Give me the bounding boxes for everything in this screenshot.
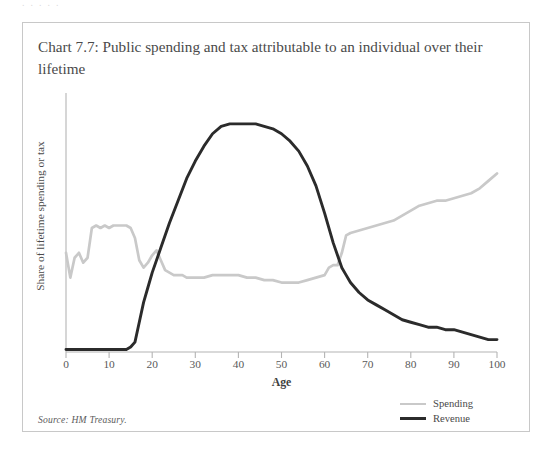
legend-item-spending: Spending: [400, 396, 473, 411]
legend-label-spending: Spending: [433, 398, 473, 409]
chart-source-note: Source: HM Treasury.: [38, 414, 127, 425]
x-axis-tick-label: 90: [439, 358, 469, 370]
x-axis-tick-label: 80: [396, 358, 426, 370]
y-axis-title: Share of lifetime spending or tax: [34, 111, 46, 321]
page-edge-artifact: ∙ ∙ ∙ ∙ ∙: [22, 0, 142, 10]
legend-swatch-revenue-icon: [400, 417, 426, 420]
x-axis-tick-label: 30: [180, 358, 210, 370]
legend-item-revenue: Revenue: [400, 411, 473, 426]
x-axis-title: Age: [66, 375, 497, 390]
chart-title: Chart 7.7: Public spending and tax attri…: [38, 36, 506, 80]
x-axis-tick-label: 50: [267, 358, 297, 370]
x-axis-tick-label: 60: [310, 358, 340, 370]
x-axis-tick-label: 20: [137, 358, 167, 370]
x-axis-tick-label: 100: [482, 358, 512, 370]
x-axis-tick-label: 40: [223, 358, 253, 370]
legend-swatch-spending-icon: [400, 403, 426, 405]
legend-label-revenue: Revenue: [433, 413, 470, 424]
chart-frame: [22, 22, 530, 432]
x-axis-tick-label: 70: [353, 358, 383, 370]
x-axis-tick-label: 0: [51, 358, 81, 370]
x-axis-tick-label: 10: [94, 358, 124, 370]
chart-page: ∙ ∙ ∙ ∙ ∙ Chart 7.7: Public spending and…: [0, 0, 554, 464]
chart-legend: Spending Revenue: [400, 396, 473, 426]
